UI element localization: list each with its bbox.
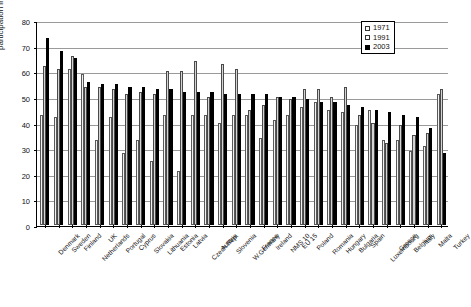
x-tick-mark bbox=[359, 225, 360, 228]
bar-2003 bbox=[101, 84, 104, 225]
y-tick-label-0: 0 bbox=[8, 224, 30, 231]
bar-2003 bbox=[347, 105, 350, 225]
x-tick-mark bbox=[154, 225, 155, 228]
x-tick-mark bbox=[291, 225, 292, 228]
y-tick-mark-40 bbox=[34, 125, 37, 126]
legend-item-1971: 1971 bbox=[365, 24, 390, 32]
bar-2003 bbox=[238, 94, 241, 225]
bar-group bbox=[407, 22, 421, 225]
x-tick-mark bbox=[277, 225, 278, 228]
bar-2003 bbox=[388, 112, 391, 225]
x-axis-tick-labels: DenmarkSwedenFinlandNetherlandsUKPortuga… bbox=[37, 229, 448, 307]
bar-group bbox=[216, 22, 230, 225]
bar-group bbox=[325, 22, 339, 225]
bar-2003 bbox=[251, 94, 254, 225]
bar-2003 bbox=[402, 115, 405, 225]
y-axis-label: participation in % bbox=[0, 0, 5, 50]
legend-item-2003: 2003 bbox=[365, 43, 390, 51]
legend-item-1991: 1991 bbox=[365, 34, 390, 42]
x-tick-mark bbox=[236, 225, 237, 228]
bar-2003 bbox=[183, 92, 186, 225]
bar-2003 bbox=[156, 89, 159, 225]
y-tick-mark-10 bbox=[34, 201, 37, 202]
y-tick-mark-80 bbox=[34, 22, 37, 23]
bar-group bbox=[147, 22, 161, 225]
x-tick-mark bbox=[127, 225, 128, 228]
y-tick-mark-70 bbox=[34, 48, 37, 49]
legend-label-2003: 2003 bbox=[373, 43, 390, 51]
bar-group bbox=[134, 22, 148, 225]
x-tick-mark bbox=[373, 225, 374, 228]
bar-group bbox=[175, 22, 189, 225]
x-tick-mark bbox=[209, 225, 210, 228]
bar-group bbox=[38, 22, 52, 225]
bar-2003 bbox=[197, 92, 200, 225]
bar-group bbox=[339, 22, 353, 225]
y-tick-mark-20 bbox=[34, 176, 37, 177]
x-tick-mark bbox=[223, 225, 224, 228]
x-tick-mark bbox=[141, 225, 142, 228]
y-tick-label-50: 50 bbox=[8, 95, 30, 102]
legend-label-1991: 1991 bbox=[373, 34, 390, 42]
bar-group bbox=[257, 22, 271, 225]
bar-group bbox=[311, 22, 325, 225]
bar-group bbox=[393, 22, 407, 225]
bar-2003 bbox=[375, 110, 378, 225]
x-tick-mark bbox=[113, 225, 114, 228]
bar-2003 bbox=[142, 87, 145, 225]
bar-group bbox=[106, 22, 120, 225]
x-tick-mark bbox=[195, 225, 196, 228]
x-tick-mark bbox=[100, 225, 101, 228]
bar-2003 bbox=[87, 82, 90, 226]
bar-2003 bbox=[115, 84, 118, 225]
bar-group bbox=[243, 22, 257, 225]
x-tick-mark bbox=[400, 225, 401, 228]
bar-2003 bbox=[292, 97, 295, 225]
x-tick-mark bbox=[168, 225, 169, 228]
bar-2003 bbox=[169, 89, 172, 225]
legend-label-1971: 1971 bbox=[373, 24, 390, 32]
x-tick-mark bbox=[428, 225, 429, 228]
y-tick-label-70: 70 bbox=[8, 44, 30, 51]
bar-2003 bbox=[429, 128, 432, 225]
bar-group bbox=[65, 22, 79, 225]
bar-2003 bbox=[443, 153, 446, 225]
x-tick-mark bbox=[441, 225, 442, 228]
bar-group bbox=[229, 22, 243, 225]
y-tick-label-10: 10 bbox=[8, 198, 30, 205]
y-tick-mark-0 bbox=[34, 227, 37, 228]
x-tick-mark bbox=[250, 225, 251, 228]
legend-swatch-icon-2003 bbox=[365, 45, 370, 50]
bar-group bbox=[93, 22, 107, 225]
bar-group bbox=[270, 22, 284, 225]
bar-2003 bbox=[224, 94, 227, 225]
bar-2003 bbox=[361, 107, 364, 225]
bar-2003 bbox=[74, 58, 77, 225]
y-tick-label-60: 60 bbox=[8, 70, 30, 77]
bar-group bbox=[434, 22, 448, 225]
y-tick-mark-60 bbox=[34, 73, 37, 74]
bar-2003 bbox=[128, 87, 131, 225]
x-tick-mark bbox=[45, 225, 46, 228]
y-tick-label-80: 80 bbox=[8, 19, 30, 26]
x-tick-mark bbox=[72, 225, 73, 228]
y-tick-label-40: 40 bbox=[8, 121, 30, 128]
bar-group bbox=[202, 22, 216, 225]
x-tick-label: Turkey bbox=[452, 232, 471, 251]
y-tick-label-30: 30 bbox=[8, 147, 30, 154]
x-tick-mark bbox=[387, 225, 388, 228]
y-tick-mark-50 bbox=[34, 99, 37, 100]
bar-group bbox=[120, 22, 134, 225]
bar-2003 bbox=[60, 51, 63, 225]
x-tick-mark bbox=[346, 225, 347, 228]
bar-2003 bbox=[306, 99, 309, 225]
bar-2003 bbox=[210, 92, 213, 225]
bar-group bbox=[188, 22, 202, 225]
bar-group bbox=[298, 22, 312, 225]
y-tick-mark-30 bbox=[34, 150, 37, 151]
bar-2003 bbox=[46, 38, 49, 225]
x-tick-mark bbox=[182, 225, 183, 228]
bar-group bbox=[284, 22, 298, 225]
legend-swatch-icon-1991 bbox=[365, 35, 370, 40]
